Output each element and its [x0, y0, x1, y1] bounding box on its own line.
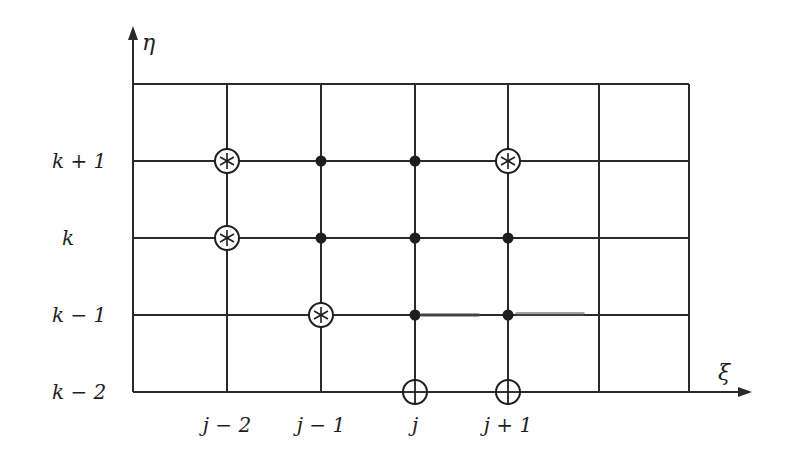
column-label: j + 1: [480, 413, 532, 437]
grid-canvas: η ξ k + 1kk − 1k − 2 j − 2j − 1jj + 1: [0, 0, 785, 455]
circled-asterisk-icon: [215, 149, 239, 173]
row-labels: k + 1kk − 1k − 2: [52, 149, 106, 404]
filled-dot-icon: [410, 156, 421, 167]
circled-asterisk-icon: [496, 149, 520, 173]
xi-arrow-icon: [738, 387, 752, 397]
filled-dot-icon: [503, 310, 514, 321]
column-label: j: [408, 413, 418, 437]
filled-dot-icon: [316, 156, 327, 167]
row-label: k + 1: [52, 149, 106, 173]
filled-dot-icon: [503, 233, 514, 244]
filled-dot-icon: [410, 233, 421, 244]
filled-dot-icon: [316, 233, 327, 244]
eta-arrow-icon: [128, 26, 138, 40]
column-labels: j − 2j − 1jj + 1: [199, 413, 532, 437]
stencil-diagram: η ξ k + 1kk − 1k − 2 j − 2j − 1jj + 1: [0, 0, 785, 455]
column-label: j − 2: [199, 413, 251, 437]
circled-asterisk-icon: [309, 303, 333, 327]
row-label: k − 2: [52, 380, 106, 404]
row-label: k: [62, 226, 74, 250]
eta-axis-label: η: [142, 30, 155, 55]
filled-dot-icon: [410, 310, 421, 321]
row-label: k − 1: [52, 303, 106, 327]
column-label: j − 1: [293, 413, 345, 437]
circled-plus-icon: [496, 380, 520, 404]
circled-asterisk-icon: [215, 226, 239, 250]
axes: η ξ: [128, 26, 752, 397]
stencil-markers: [215, 149, 520, 404]
circled-plus-icon: [403, 380, 427, 404]
xi-axis-label: ξ: [718, 360, 732, 385]
